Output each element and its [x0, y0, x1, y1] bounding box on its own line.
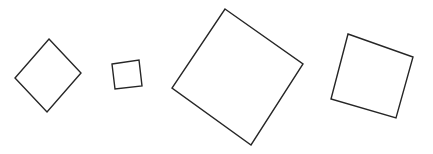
figure-canvas: [0, 0, 433, 154]
figure-background: [0, 0, 433, 154]
shapes-figure: [0, 0, 433, 154]
